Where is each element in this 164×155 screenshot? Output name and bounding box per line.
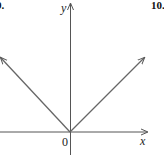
right-ray bbox=[70, 58, 144, 132]
origin-label: 0 bbox=[62, 135, 68, 149]
x-axis-label: x bbox=[139, 134, 146, 148]
problem-number-right: 10. bbox=[151, 0, 164, 11]
coordinate-plane: 9. 10. y x 0 bbox=[0, 0, 164, 155]
problem-number-left: 9. bbox=[0, 0, 5, 11]
y-axis-label: y bbox=[60, 1, 67, 15]
graph-figure: 9. 10. y x 0 bbox=[0, 0, 164, 155]
left-ray bbox=[1, 58, 70, 132]
